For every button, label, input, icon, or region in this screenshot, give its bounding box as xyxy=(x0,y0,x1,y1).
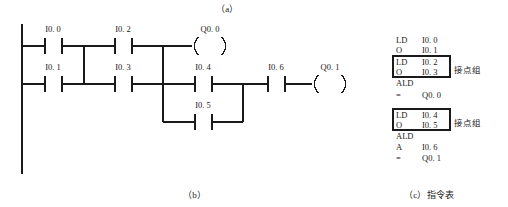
caption-c-instruction-list: （c）指令表 xyxy=(404,188,454,201)
label-i01: I0. 1 xyxy=(45,62,61,72)
instr-op-9: A xyxy=(396,142,403,152)
contact-group-label-1: 接点组 xyxy=(454,65,481,75)
coil-q01-left-arc xyxy=(314,75,319,93)
instr-operand-10: Q0. 1 xyxy=(422,153,441,163)
label-i06: I0. 6 xyxy=(268,62,284,72)
label-i05: I0. 5 xyxy=(195,100,211,110)
instr-operand-9: I0. 6 xyxy=(422,142,438,152)
coil-q01-right-arc xyxy=(341,75,346,93)
instr-op-2: LD xyxy=(396,57,407,67)
label-i02: I0. 2 xyxy=(115,24,131,34)
instr-op-10: = xyxy=(396,153,401,163)
instr-op-3: O xyxy=(396,67,402,77)
instr-op-8: ALD xyxy=(396,131,413,141)
instr-op-5: = xyxy=(396,90,401,100)
label-i04: I0. 4 xyxy=(195,62,211,72)
coil-q00-right-arc xyxy=(221,37,226,55)
instr-operand-1: I0. 1 xyxy=(422,45,438,55)
instr-operand-3: I0. 3 xyxy=(422,67,438,77)
label-q01: Q0. 1 xyxy=(321,62,340,72)
instr-operand-2: I0. 2 xyxy=(422,57,438,67)
caption-b: （b） xyxy=(183,188,206,201)
instr-op-6: LD xyxy=(396,110,407,120)
coil-q00-left-arc xyxy=(194,37,199,55)
label-i00: I0. 0 xyxy=(45,24,61,34)
instr-operand-0: I0. 0 xyxy=(422,35,438,45)
contact-group-label-2: 接点组 xyxy=(454,118,481,128)
label-q00: Q0. 0 xyxy=(201,24,220,34)
label-i03: I0. 3 xyxy=(115,62,131,72)
instr-operand-7: I0. 5 xyxy=(422,120,438,130)
instruction-list-table: LD I0. 0 O I0. 1 LD I0. 2 O I0. 3 ALD = … xyxy=(392,34,508,164)
instr-op-4: ALD xyxy=(396,78,413,88)
instr-operand-5: Q0. 0 xyxy=(422,90,441,100)
instr-op-0: LD xyxy=(396,35,407,45)
instr-op-1: O xyxy=(396,45,402,55)
ladder-diagram: I0. 0 I0. 2 Q0. 0 I0. 1 I0. 3 I0. 4 I0. … xyxy=(0,14,392,186)
instr-op-7: O xyxy=(396,120,402,130)
figure-container: （a） （b） （c）指令表 xyxy=(0,0,508,207)
instr-operand-6: I0. 4 xyxy=(422,110,438,120)
